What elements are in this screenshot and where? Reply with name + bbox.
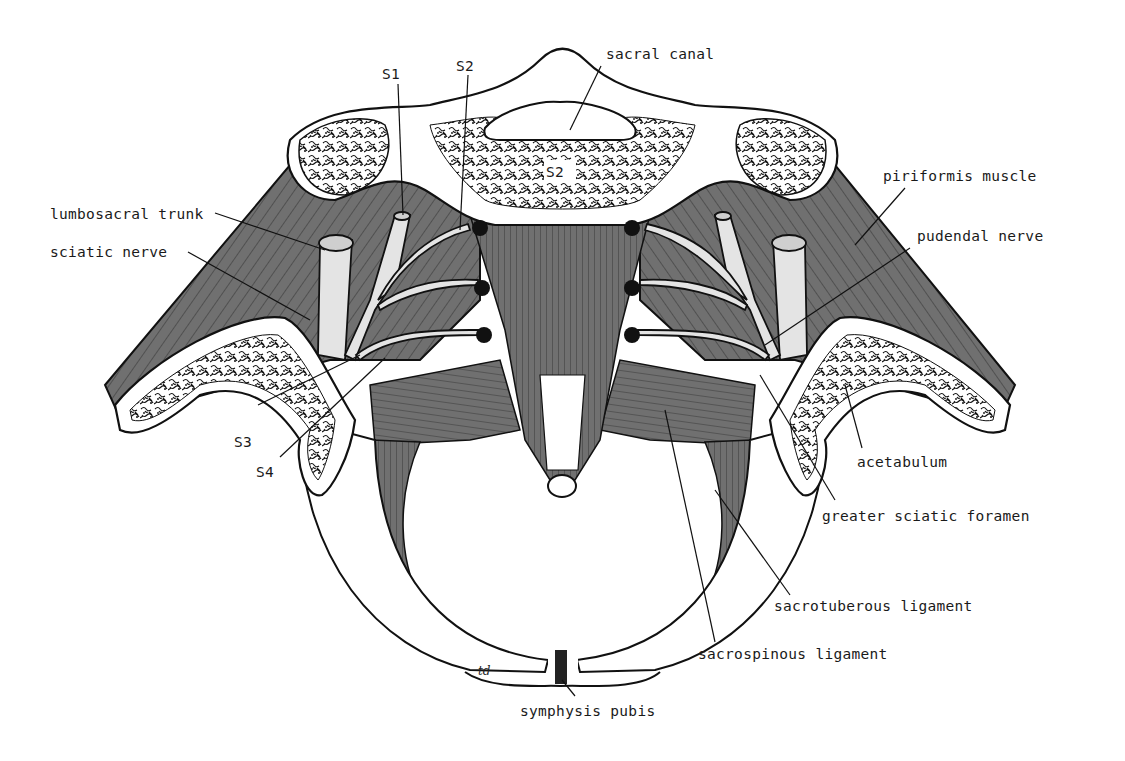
label-sciatic-nerve: sciatic nerve	[50, 244, 167, 260]
label-s2-vertebra: S2	[546, 164, 564, 180]
artist-signature: td	[478, 664, 491, 678]
label-piriformis-muscle: piriformis muscle	[883, 168, 1037, 184]
sacrospinous-ligament-left	[370, 360, 520, 445]
anatomy-diagram: sacral canal S1 S2 S2 lumbosacral trunk …	[0, 0, 1125, 761]
label-sacrospinous-ligament: sacrospinous ligament	[698, 646, 888, 662]
label-s3: S3	[234, 434, 252, 450]
label-sacral-canal: sacral canal	[606, 46, 714, 62]
label-s1: S1	[382, 66, 400, 82]
label-greater-sciatic-foramen: greater sciatic foramen	[822, 508, 1030, 524]
coccyx-tip	[548, 475, 576, 497]
label-sacrotuberous-ligament: sacrotuberous ligament	[774, 598, 973, 614]
label-s2-root: S2	[456, 58, 474, 74]
coccyx	[540, 375, 585, 470]
label-symphysis-pubis: symphysis pubis	[520, 703, 655, 719]
label-s4: S4	[256, 464, 274, 480]
symphysis-pubis-joint	[555, 650, 567, 684]
label-acetabulum: acetabulum	[857, 454, 947, 470]
sacrospinous-ligament-right	[600, 360, 755, 445]
label-pudendal-nerve: pudendal nerve	[917, 228, 1043, 244]
pelvis-illustration	[0, 0, 1125, 761]
label-lumbosacral-trunk: lumbosacral trunk	[50, 206, 204, 222]
